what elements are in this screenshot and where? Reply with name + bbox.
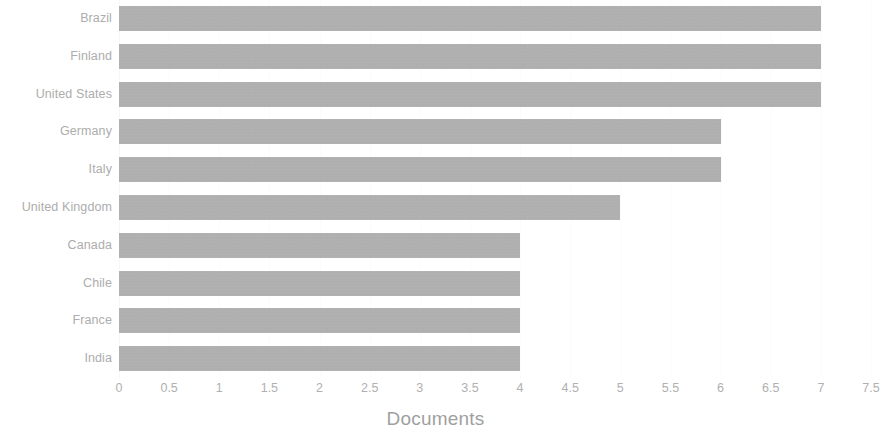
x-tick-label: 3.5 bbox=[461, 381, 478, 395]
category-label: Finland bbox=[0, 49, 112, 63]
category-label: Germany bbox=[0, 124, 112, 138]
x-tick-label: 0.5 bbox=[160, 381, 177, 395]
x-tick-label: 5.5 bbox=[662, 381, 679, 395]
category-label: France bbox=[0, 313, 112, 327]
bar-row bbox=[119, 38, 871, 76]
category-label: Brazil bbox=[0, 11, 112, 25]
bar-row bbox=[119, 189, 871, 227]
bar-row bbox=[119, 113, 871, 151]
x-tick-label: 5 bbox=[617, 381, 624, 395]
category-axis: BrazilFinlandUnited StatesGermanyItalyUn… bbox=[0, 0, 112, 378]
x-tick-label: 4 bbox=[517, 381, 524, 395]
x-tick-label: 1 bbox=[216, 381, 223, 395]
gridline bbox=[871, 0, 872, 378]
x-tick-label: 4.5 bbox=[561, 381, 578, 395]
x-tick-label: 3 bbox=[416, 381, 423, 395]
x-tick-label: 6 bbox=[717, 381, 724, 395]
x-tick-label: 7 bbox=[817, 381, 824, 395]
bar bbox=[119, 6, 821, 31]
bar bbox=[119, 119, 721, 144]
bar-row bbox=[119, 227, 871, 265]
category-label: India bbox=[0, 351, 112, 365]
x-tick-label: 1.5 bbox=[261, 381, 278, 395]
bar bbox=[119, 82, 821, 107]
bar bbox=[119, 346, 520, 371]
bar-row bbox=[119, 340, 871, 378]
bar bbox=[119, 233, 520, 258]
x-tick-label: 2 bbox=[316, 381, 323, 395]
category-label: Canada bbox=[0, 238, 112, 252]
bar bbox=[119, 271, 520, 296]
category-label: Italy bbox=[0, 162, 112, 176]
x-tick-label: 7.5 bbox=[862, 381, 879, 395]
bar bbox=[119, 44, 821, 69]
bar-row bbox=[119, 151, 871, 189]
category-label: United States bbox=[0, 87, 112, 101]
bar bbox=[119, 195, 620, 220]
bar bbox=[119, 308, 520, 333]
bar-row bbox=[119, 265, 871, 303]
x-axis-title: Documents bbox=[0, 408, 871, 430]
bar-row bbox=[119, 76, 871, 114]
x-tick-label: 2.5 bbox=[361, 381, 378, 395]
x-axis: 00.511.522.533.544.555.566.577.5 bbox=[119, 381, 871, 405]
x-tick-label: 6.5 bbox=[762, 381, 779, 395]
category-label: Chile bbox=[0, 276, 112, 290]
category-label: United Kingdom bbox=[0, 200, 112, 214]
bar-row bbox=[119, 302, 871, 340]
plot-area bbox=[119, 0, 871, 378]
bar-row bbox=[119, 0, 871, 38]
x-tick-label: 0 bbox=[116, 381, 123, 395]
bar bbox=[119, 157, 721, 182]
